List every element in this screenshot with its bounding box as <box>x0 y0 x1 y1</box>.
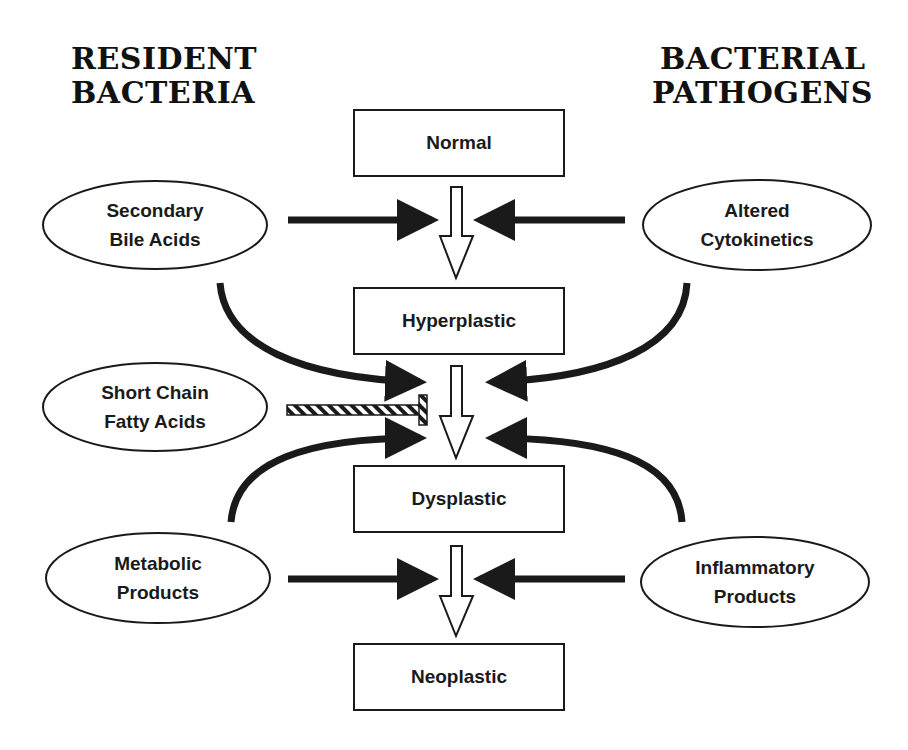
factor-label-altered-cytokinetics: Altered Cytokinetics <box>643 180 871 270</box>
stage-label-normal: Normal <box>354 110 564 176</box>
factor-label-secondary-bile-acids: Secondary Bile Acids <box>43 181 267 269</box>
progression-arrow-3 <box>440 546 473 636</box>
factor-label-metabolic-products: Metabolic Products <box>46 533 270 623</box>
factor-line1: Inflammatory <box>695 553 814 582</box>
factor-line2: Products <box>714 582 796 611</box>
stage-label-neoplastic: Neoplastic <box>354 644 564 710</box>
factor-line2: Cytokinetics <box>701 225 814 254</box>
stage-label-dysplastic: Dysplastic <box>354 466 564 532</box>
progression-arrow-2 <box>440 366 473 458</box>
factor-line1: Altered <box>724 196 789 225</box>
header-right-line1: BACTERIAL <box>652 42 873 76</box>
factor-line1: Secondary <box>106 196 203 225</box>
factor-line2: Bile Acids <box>109 225 200 254</box>
header-left-line2: BACTERIA <box>71 76 257 110</box>
header-right-line2: PATHOGENS <box>652 76 873 110</box>
stage-label-hyperplastic: Hyperplastic <box>354 288 564 354</box>
progression-arrow-1 <box>440 187 473 278</box>
header-bacterial-pathogens: BACTERIAL PATHOGENS <box>652 42 873 110</box>
factor-line2: Fatty Acids <box>104 407 206 436</box>
inhibit-bar-fatty-acids <box>287 405 420 415</box>
factor-line1: Metabolic <box>114 549 202 578</box>
header-resident-bacteria: RESIDENT BACTERIA <box>71 42 257 110</box>
factor-label-inflammatory-products: Inflammatory Products <box>641 537 869 627</box>
factor-label-short-chain-fatty-acids: Short Chain Fatty Acids <box>43 363 267 451</box>
factor-line2: Products <box>117 578 199 607</box>
factor-line1: Short Chain <box>101 378 209 407</box>
header-left-line1: RESIDENT <box>71 42 257 76</box>
inhibit-bar-cap <box>419 395 427 425</box>
